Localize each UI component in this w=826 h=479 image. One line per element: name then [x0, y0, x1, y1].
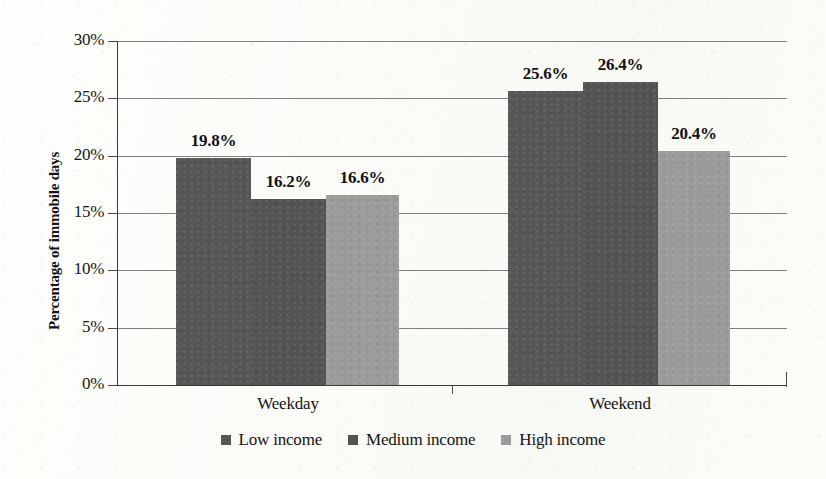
bar-weekend-high-income [658, 151, 730, 385]
data-label-weekend-medium-income: 26.4% [583, 55, 658, 75]
bar-weekday-low-income [176, 158, 251, 385]
grouped-bar-chart: Percentage of immobile days 30% 25% 20% … [0, 0, 826, 479]
y-tickmark-10 [108, 270, 117, 271]
y-tick-label-15: 15% [48, 202, 104, 222]
legend-item-medium-income[interactable]: Medium income [348, 430, 475, 450]
bar-weekend-medium-income [583, 82, 658, 385]
y-axis-line [117, 41, 118, 386]
legend-swatch-medium-income-icon [348, 435, 358, 445]
y-tickmark-15 [108, 213, 117, 214]
y-tick-label-10: 10% [48, 259, 104, 279]
bar-weekend-low-income [508, 91, 583, 385]
data-label-weekend-high-income: 20.4% [658, 124, 730, 144]
gridline-30 [117, 41, 787, 42]
x-category-label-weekend: Weekend [560, 394, 680, 414]
data-label-weekday-medium-income: 16.2% [251, 172, 326, 192]
y-tick-label-30: 30% [48, 30, 104, 50]
data-label-weekend-low-income: 25.6% [508, 64, 583, 84]
gridline-25 [117, 98, 787, 99]
legend-label-high-income: High income [519, 430, 605, 450]
legend-item-high-income[interactable]: High income [501, 430, 605, 450]
x-category-label-weekday: Weekday [228, 394, 348, 414]
x-tickmark-plot-end [786, 378, 787, 387]
x-tickmark-group-separator [452, 385, 453, 394]
y-tickmark-20 [108, 156, 117, 157]
legend-swatch-high-income-icon [501, 435, 511, 445]
y-axis-title: Percentage of immobile days [46, 152, 63, 330]
y-tickmark-25 [108, 98, 117, 99]
y-tick-label-25: 25% [48, 87, 104, 107]
data-label-weekday-high-income: 16.6% [326, 168, 399, 188]
legend-item-low-income[interactable]: Low income [221, 430, 322, 450]
y-tickmark-5 [108, 328, 117, 329]
bar-weekday-medium-income [251, 199, 326, 385]
y-tick-label-0: 0% [48, 374, 104, 394]
y-tick-label-5: 5% [48, 317, 104, 337]
data-label-weekday-low-income: 19.8% [176, 131, 251, 151]
bar-weekday-high-income [326, 195, 399, 385]
legend-label-low-income: Low income [239, 430, 322, 450]
y-tickmark-0 [108, 385, 117, 386]
legend-label-medium-income: Medium income [366, 430, 475, 450]
y-tickmark-30 [108, 41, 117, 42]
legend-swatch-low-income-icon [221, 435, 231, 445]
chart-legend: Low income Medium income High income [0, 430, 826, 450]
y-tick-label-20: 20% [48, 145, 104, 165]
